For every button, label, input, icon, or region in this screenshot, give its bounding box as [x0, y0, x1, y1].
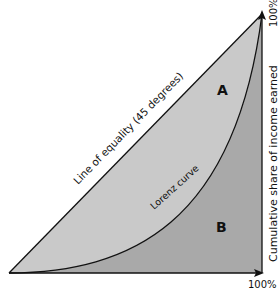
region-b-label: B	[216, 219, 227, 235]
y-axis-title: Cumulative share of income earned	[267, 65, 280, 262]
x-axis-end-label: 100%	[248, 279, 277, 290]
region-a-label: A	[217, 82, 228, 98]
y-axis-end-label: 100%	[268, 0, 279, 27]
lorenz-curve-diagram: Line of equality (45 degrees) Lorenz cur…	[0, 0, 280, 290]
